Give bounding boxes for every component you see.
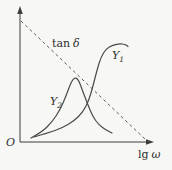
y-axis-arrow-icon [17,6,23,14]
diagram-canvas: tanδ Y1 Y2 O lgω [0,0,172,170]
x-axis-label: lgω [138,148,161,161]
y2-label: Y2 [50,95,62,110]
origin-label: O [6,136,15,149]
x-axis-arrow-icon [146,139,154,145]
tan-delta-label: tanδ [52,37,80,50]
loss-tangent-diagram: tanδ Y1 Y2 O lgω [0,0,172,170]
y2-curve [31,78,112,138]
tan-delta-dashed-line [21,21,146,140]
y1-label: Y1 [112,49,124,64]
